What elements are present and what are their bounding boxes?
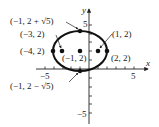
x-tick-label-neg5: −5: [40, 71, 50, 81]
point-focus-right: [96, 49, 101, 54]
y-axis-label: y: [81, 5, 86, 15]
leader-bottom-vertex: [69, 73, 78, 82]
y-axis: y 5 −5: [77, 5, 92, 124]
point-vertex-left: [51, 49, 56, 54]
point-bottom-vertex: [78, 69, 82, 73]
label-top-vertex: (−1, 2 + √5): [10, 16, 54, 26]
y-tick-label-neg5: −5: [77, 109, 87, 119]
ellipse-graph: x −5 5 y 5 −5: [0, 0, 159, 127]
y-tick-label-pos5: 5: [83, 19, 88, 29]
x-axis-label: x: [145, 58, 150, 68]
label-bottom-vertex: (−1, 2 − √5): [10, 81, 54, 91]
point-vertex-right: [105, 49, 110, 54]
label-vertex-right: (2, 2): [111, 53, 131, 63]
leader-top-vertex: [66, 22, 78, 29]
label-focus-right: (1, 2): [112, 29, 132, 39]
x-tick-label-pos5: 5: [131, 71, 136, 81]
label-vertex-left: (−4, 2): [20, 46, 45, 56]
label-center: (−1, 2): [62, 53, 87, 63]
point-top-vertex: [78, 29, 82, 33]
label-focus-left: (−3, 2): [20, 29, 45, 39]
